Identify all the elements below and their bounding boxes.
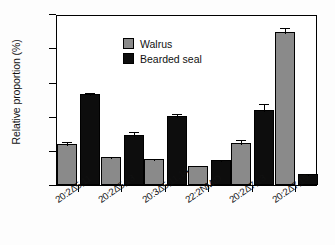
legend-label: Bearded seal <box>140 53 202 65</box>
bar-walrus <box>57 144 77 185</box>
legend-label: Walrus <box>140 38 172 50</box>
error-bar-cap <box>62 142 72 143</box>
error-bar-cap <box>280 28 290 29</box>
y-tick-mark <box>49 151 56 152</box>
legend-item: Walrus <box>123 36 202 51</box>
chart-legend: WalrusBearded seal <box>123 36 202 66</box>
bar-bearded-seal <box>80 94 100 185</box>
error-bar-cap <box>216 160 226 161</box>
legend-swatch-walrus <box>123 38 134 49</box>
y-axis-title: Relative proportion (%) <box>10 12 22 172</box>
y-tick-mark <box>49 117 56 118</box>
y-tick-mark <box>49 185 56 186</box>
legend-item: Bearded seal <box>123 51 202 66</box>
error-bar-cap <box>172 114 182 115</box>
error-bar-cap <box>85 93 95 94</box>
error-bar <box>264 104 265 112</box>
legend-swatch-bearded-seal <box>123 53 134 64</box>
error-bar-cap <box>149 159 159 160</box>
error-bar-cap <box>236 140 246 141</box>
y-tick-mark <box>49 83 56 84</box>
error-bar-cap <box>129 132 139 133</box>
bar-walrus <box>231 143 251 185</box>
error-bar-cap <box>259 104 269 105</box>
y-tick-mark <box>49 48 56 49</box>
bar-walrus <box>275 32 295 185</box>
error-bar-cap <box>193 166 203 167</box>
error-bar-cap <box>106 157 116 158</box>
y-tick-mark <box>49 14 56 15</box>
plot-area: WalrusBearded seal <box>56 15 317 186</box>
bar-chart-figure: Relative proportion (%) 0.00.10.20.30.40… <box>0 0 335 245</box>
